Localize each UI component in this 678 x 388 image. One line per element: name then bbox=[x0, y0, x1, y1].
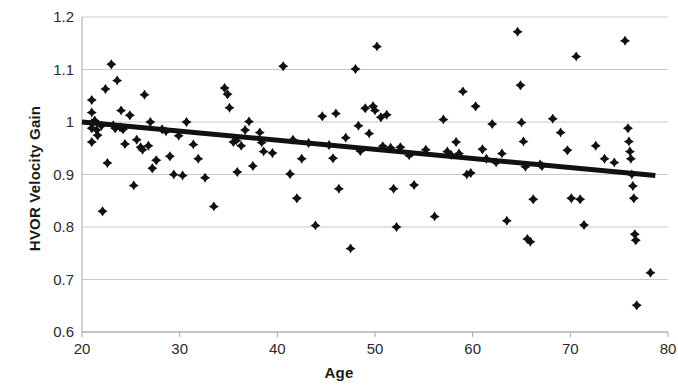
data-point bbox=[556, 128, 566, 138]
data-point bbox=[267, 148, 277, 158]
data-point bbox=[346, 244, 356, 254]
data-point bbox=[285, 169, 295, 179]
data-point bbox=[516, 80, 526, 90]
x-tick-label: 40 bbox=[247, 340, 307, 357]
x-tick-label: 50 bbox=[345, 340, 405, 357]
x-tick-label: 60 bbox=[443, 340, 503, 357]
data-point bbox=[562, 145, 572, 155]
data-point bbox=[477, 144, 487, 154]
data-point bbox=[518, 136, 528, 146]
data-point bbox=[631, 235, 641, 245]
x-tick-marks bbox=[82, 332, 668, 337]
data-point bbox=[391, 222, 401, 232]
x-axis-title: Age bbox=[0, 364, 678, 381]
data-point bbox=[350, 64, 360, 74]
x-tick-label: 80 bbox=[638, 340, 678, 357]
data-point bbox=[182, 117, 192, 127]
y-tick-label: 0.9 bbox=[26, 166, 74, 183]
data-point bbox=[471, 101, 481, 111]
x-tick-label: 30 bbox=[150, 340, 210, 357]
data-point bbox=[591, 141, 601, 151]
data-point bbox=[244, 116, 254, 126]
data-point bbox=[98, 206, 108, 216]
data-point bbox=[364, 129, 374, 139]
data-point bbox=[575, 194, 585, 204]
data-point bbox=[140, 90, 150, 100]
data-point bbox=[259, 146, 269, 156]
data-point bbox=[372, 41, 382, 51]
data-point bbox=[566, 193, 576, 203]
data-point bbox=[147, 163, 157, 173]
data-point bbox=[334, 184, 344, 194]
data-point bbox=[487, 119, 497, 129]
data-point bbox=[625, 146, 635, 156]
data-point bbox=[87, 108, 97, 118]
data-point bbox=[240, 125, 250, 135]
data-point bbox=[165, 151, 175, 161]
x-tick-label: 70 bbox=[540, 340, 600, 357]
data-point bbox=[624, 136, 634, 146]
data-point bbox=[609, 157, 619, 167]
data-point bbox=[328, 153, 338, 163]
data-point bbox=[626, 154, 636, 164]
data-point bbox=[292, 193, 302, 203]
y-tick-label: 0.8 bbox=[26, 218, 74, 235]
data-point bbox=[341, 133, 351, 143]
scatter-chart: HVOR Velocity Gain Age 1.21.110.90.80.70… bbox=[0, 0, 678, 388]
data-point bbox=[169, 170, 179, 180]
data-point bbox=[145, 117, 155, 127]
data-point bbox=[129, 181, 139, 191]
data-point bbox=[100, 84, 110, 94]
data-point bbox=[513, 27, 523, 37]
y-tick-label: 1.1 bbox=[26, 61, 74, 78]
data-point bbox=[87, 95, 97, 105]
data-point bbox=[502, 216, 512, 226]
data-point bbox=[120, 139, 130, 149]
data-point bbox=[632, 300, 642, 310]
data-point bbox=[389, 184, 399, 194]
data-point bbox=[116, 105, 126, 115]
data-point bbox=[620, 36, 630, 46]
data-point bbox=[102, 158, 112, 168]
data-point bbox=[178, 171, 188, 181]
data-point bbox=[458, 87, 468, 97]
data-point bbox=[628, 181, 638, 191]
data-point bbox=[409, 180, 419, 190]
data-point bbox=[451, 137, 461, 147]
data-point bbox=[125, 110, 135, 120]
x-tick-label: 20 bbox=[52, 340, 112, 357]
data-point bbox=[623, 123, 633, 133]
data-point bbox=[438, 114, 448, 124]
data-point bbox=[106, 59, 116, 69]
y-tick-label: 1 bbox=[26, 113, 74, 130]
data-point bbox=[317, 111, 327, 121]
data-point bbox=[151, 155, 161, 165]
data-point bbox=[600, 154, 610, 164]
data-point bbox=[528, 194, 538, 204]
data-point bbox=[430, 212, 440, 222]
data-point bbox=[188, 140, 198, 150]
data-point bbox=[112, 76, 122, 86]
data-point bbox=[87, 137, 97, 147]
data-point bbox=[497, 149, 507, 159]
data-point bbox=[209, 202, 219, 212]
data-point bbox=[517, 118, 527, 128]
data-point bbox=[93, 130, 103, 140]
data-point bbox=[331, 109, 341, 119]
data-point bbox=[571, 51, 581, 61]
y-tick-label: 0.7 bbox=[26, 271, 74, 288]
data-point bbox=[645, 268, 655, 278]
data-point bbox=[224, 103, 234, 113]
data-point bbox=[232, 167, 242, 177]
data-point bbox=[360, 103, 370, 113]
data-point bbox=[579, 220, 589, 230]
data-point bbox=[193, 154, 203, 164]
y-tick-label: 0.6 bbox=[26, 323, 74, 340]
data-point bbox=[310, 220, 320, 230]
data-point bbox=[297, 154, 307, 164]
plot-canvas bbox=[0, 0, 678, 388]
data-point bbox=[248, 161, 258, 171]
y-tick-label: 1.2 bbox=[26, 8, 74, 25]
data-point bbox=[629, 193, 639, 203]
